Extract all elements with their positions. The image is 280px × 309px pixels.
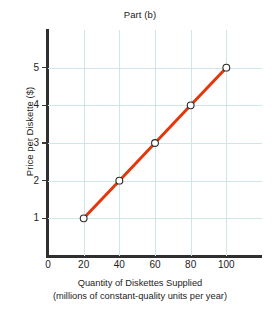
data-point-marker	[80, 215, 87, 222]
y-tick-mark	[42, 67, 47, 69]
y-tick-mark	[42, 218, 47, 220]
data-point-marker	[187, 102, 194, 109]
x-tick-label: 0	[31, 260, 65, 270]
x-tick-label: 40	[102, 260, 136, 270]
x-axis-label-line2: (millions of constant-quality units per …	[0, 290, 280, 303]
x-tick-label: 80	[174, 260, 208, 270]
y-tick-label: 4	[19, 100, 39, 110]
x-tick-label: 100	[209, 260, 243, 270]
y-tick-mark	[42, 105, 47, 107]
y-tick-mark	[42, 142, 47, 144]
x-tick-label: 60	[138, 260, 172, 270]
y-tick-mark	[42, 180, 47, 182]
x-axis-label: Quantity of Diskettes Supplied (millions…	[0, 277, 280, 303]
data-point-marker	[152, 140, 159, 147]
data-point-marker	[223, 64, 230, 71]
y-tick-label: 1	[19, 213, 39, 223]
y-tick-label: 5	[19, 63, 39, 73]
data-point-marker	[116, 177, 123, 184]
y-tick-label: 3	[19, 138, 39, 148]
supply-curve-chart: Part (b) Price per Diskette ($) Quantity…	[0, 0, 280, 309]
x-tick-label: 20	[67, 260, 101, 270]
y-tick-label: 2	[19, 176, 39, 186]
x-axis-label-line1: Quantity of Diskettes Supplied	[0, 277, 280, 290]
